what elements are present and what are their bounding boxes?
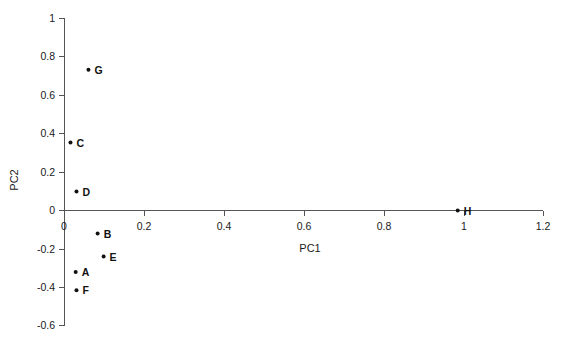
x-tick-label-0.4: 0.4 [217, 220, 232, 232]
y-tick-label-neg0.6: -0.6 [37, 319, 55, 331]
x-tick-label-0.2: 0.2 [137, 220, 152, 232]
data-point-label-f: F [82, 284, 89, 296]
data-marker-e [102, 255, 106, 259]
scatter-plot-figure: 1 0.8 0.6 0.4 0.2 0 -0.2 -0.4 -0.6 0 0.2… [0, 0, 576, 346]
y-tick-label-0.2: 0.2 [40, 166, 55, 178]
data-point-label-c: C [76, 137, 84, 149]
data-point-label-a: A [82, 266, 90, 278]
y-tick-label-0: 0 [49, 204, 55, 216]
data-marker-d [74, 190, 78, 194]
data-marker-f [74, 288, 78, 292]
y-tick-label-0.6: 0.6 [40, 89, 55, 101]
x-tick-label-0.6: 0.6 [297, 220, 312, 232]
y-axis-tick-labels: 1 0.8 0.6 0.4 0.2 0 -0.2 -0.4 -0.6 [37, 12, 55, 331]
data-point-label-g: G [94, 64, 102, 76]
y-axis-title: PC2 [8, 169, 20, 190]
y-tick-label-1: 1 [49, 12, 55, 24]
y-tick-label-0.8: 0.8 [40, 50, 55, 62]
x-tick-label-0.8: 0.8 [377, 220, 392, 232]
y-tick-label-0.4: 0.4 [40, 127, 55, 139]
plot-canvas: 1 0.8 0.6 0.4 0.2 0 -0.2 -0.4 -0.6 0 0.2… [0, 0, 576, 346]
x-axis-title: PC1 [299, 242, 320, 254]
x-tick-label-0: 0 [61, 220, 67, 232]
data-marker-c [68, 141, 72, 145]
y-tick-label-neg0.2: -0.2 [37, 243, 55, 255]
y-tick-label-neg0.4: -0.4 [37, 281, 55, 293]
x-tick-label-1: 1 [461, 220, 467, 232]
x-tick-label-1.2: 1.2 [536, 220, 551, 232]
data-point-label-h: H [464, 205, 472, 217]
data-marker-h [456, 209, 460, 213]
data-marker-a [74, 270, 78, 274]
data-point-label-e: E [110, 251, 117, 263]
data-marker-g [86, 68, 90, 72]
data-marker-b [96, 232, 100, 236]
data-point-label-d: D [82, 186, 90, 198]
data-point-label-b: B [104, 228, 112, 240]
